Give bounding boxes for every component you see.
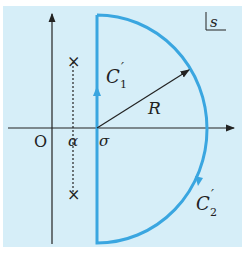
pole-lower: × — [67, 185, 80, 204]
c2-label: C — [196, 193, 210, 214]
c1-prime: ′ — [121, 60, 124, 75]
pole-upper: × — [67, 52, 80, 71]
alpha-label: α — [68, 132, 78, 150]
origin-label: O — [34, 132, 47, 151]
c2-prime: ′ — [211, 187, 214, 202]
contour-diagram: s × × O α σ R C ′ 1 C ′ 2 — [0, 0, 242, 255]
c1-subscript: 1 — [120, 78, 127, 91]
radius-label: R — [147, 98, 161, 118]
sigma-label: σ — [99, 132, 110, 150]
c1-label: C — [106, 66, 120, 87]
plane-label: s — [210, 13, 218, 31]
c2-subscript: 2 — [210, 206, 217, 219]
